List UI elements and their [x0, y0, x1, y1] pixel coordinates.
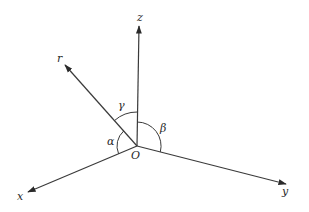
x-axis-label: x: [17, 190, 24, 203]
z-axis: [137, 26, 139, 146]
alpha-label: α: [107, 135, 115, 148]
gamma-arc: [115, 112, 138, 121]
x-axis: [28, 146, 137, 192]
r-vector-label: r: [57, 52, 63, 65]
r-vector: [65, 65, 137, 146]
y-axis: [137, 146, 286, 184]
direction-angles-diagram: z x y r O γ α β: [0, 0, 309, 212]
alpha-arc: [117, 131, 124, 154]
y-axis-label: y: [281, 185, 289, 198]
gamma-label: γ: [118, 99, 125, 112]
z-axis-label: z: [136, 11, 143, 24]
beta-label: β: [159, 122, 166, 135]
origin-label: O: [131, 149, 140, 162]
